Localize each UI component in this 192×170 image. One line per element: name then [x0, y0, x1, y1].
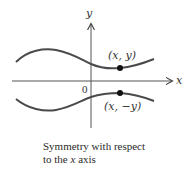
point-lower-label: (x, −y)	[104, 100, 141, 113]
caption-line-2-prefix: to the	[43, 153, 71, 165]
point-upper	[117, 65, 123, 71]
caption-line-1: Symmetry with respect	[43, 140, 145, 153]
caption-line-2-suffix: axis	[75, 153, 95, 165]
x-axis-label: x	[176, 74, 183, 87]
point-upper-label: (x, y)	[108, 49, 136, 62]
point-lower	[117, 90, 123, 96]
y-axis-label: y	[85, 7, 93, 20]
figure-caption: Symmetry with respect to the x axis	[43, 140, 145, 166]
caption-line-2: to the x axis	[43, 153, 145, 166]
origin-label: 0	[82, 83, 88, 95]
